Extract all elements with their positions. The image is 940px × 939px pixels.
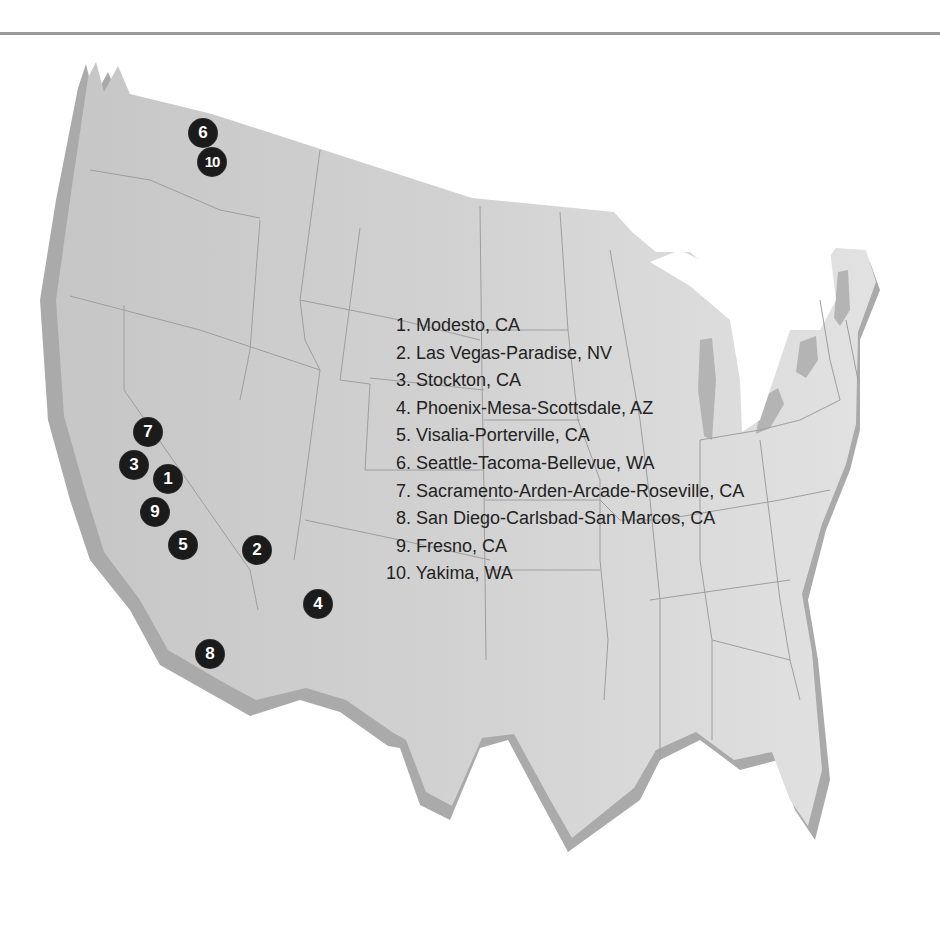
marker-label: 2 <box>252 540 261 559</box>
marker-label: 10 <box>205 153 220 170</box>
marker-9[interactable]: 9 <box>141 498 169 526</box>
marker-label: 1 <box>163 469 172 488</box>
legend-item: 2. Las Vegas-Paradise, NV <box>396 340 744 368</box>
marker-label: 5 <box>178 535 187 554</box>
legend-item: 4. Phoenix-Mesa-Scottsdale, AZ <box>396 395 744 423</box>
marker-8[interactable]: 8 <box>196 640 224 668</box>
legend-item: 1. Modesto, CA <box>396 312 744 340</box>
marker-label: 4 <box>313 594 322 613</box>
marker-label: 6 <box>198 123 207 142</box>
marker-label: 9 <box>150 502 159 521</box>
marker-6[interactable]: 6 <box>189 119 217 147</box>
legend-item: 7. Sacramento-Arden-Arcade-Roseville, CA <box>396 478 744 506</box>
marker-1[interactable]: 1 <box>154 465 182 493</box>
legend-item: 6. Seattle-Tacoma-Bellevue, WA <box>396 450 744 478</box>
marker-label: 8 <box>205 644 214 663</box>
legend-item: 3. Stockton, CA <box>396 367 744 395</box>
legend-item: 9. Fresno, CA <box>396 533 744 561</box>
marker-label: 7 <box>143 422 152 441</box>
marker-2[interactable]: 2 <box>243 536 271 564</box>
legend-item: 8. San Diego-Carlsbad-San Marcos, CA <box>396 505 744 533</box>
marker-3[interactable]: 3 <box>120 451 148 479</box>
marker-label: 3 <box>129 455 138 474</box>
marker-5[interactable]: 5 <box>169 531 197 559</box>
legend-item: 5. Visalia-Porterville, CA <box>396 422 744 450</box>
marker-10[interactable]: 10 <box>198 148 226 176</box>
legend-item: 10. Yakima, WA <box>386 560 744 588</box>
marker-4[interactable]: 4 <box>304 590 332 618</box>
legend: 1. Modesto, CA 2. Las Vegas-Paradise, NV… <box>396 312 744 588</box>
marker-7[interactable]: 7 <box>134 418 162 446</box>
